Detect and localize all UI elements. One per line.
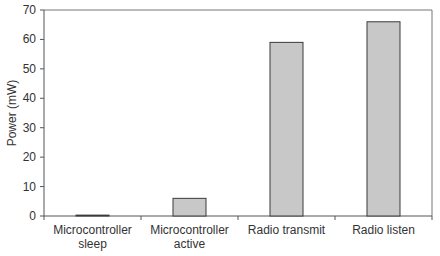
- y-tick-label: 40: [23, 91, 37, 105]
- y-tick-label: 50: [23, 62, 37, 76]
- bar-radio-transmit: [270, 42, 303, 216]
- y-axis: 010203040506070: [23, 3, 44, 223]
- bars: [76, 22, 400, 216]
- y-tick-label: 70: [23, 3, 37, 17]
- x-category-label: Radio listen: [352, 223, 415, 237]
- bar-microcontroller-sleep: [76, 215, 109, 216]
- x-category-label: Radio transmit: [248, 223, 326, 237]
- y-axis-label: Power (mW): [5, 80, 19, 147]
- x-axis: MicrocontrollersleepMicrocontrolleractiv…: [44, 216, 432, 251]
- y-tick-label: 60: [23, 32, 37, 46]
- bar-chart: 010203040506070 MicrocontrollersleepMicr…: [0, 0, 440, 256]
- x-category-label: Microcontrollersleep: [53, 223, 132, 251]
- bar-microcontroller-active: [173, 198, 206, 216]
- y-tick-label: 0: [29, 209, 36, 223]
- y-tick-label: 10: [23, 180, 37, 194]
- bar-radio-listen: [367, 22, 400, 216]
- y-tick-label: 30: [23, 121, 37, 135]
- x-category-label: Microcontrolleractive: [150, 223, 229, 251]
- y-tick-label: 20: [23, 150, 37, 164]
